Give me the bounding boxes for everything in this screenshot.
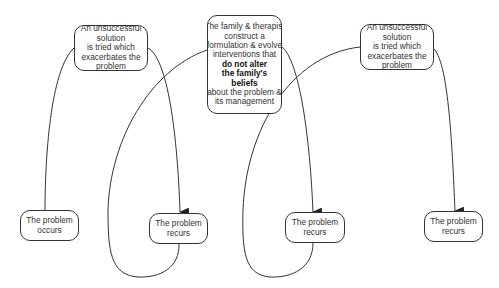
node-problem-recurs-3: The problem recurs	[424, 211, 483, 242]
edge-solution-right-to-recurs-3	[433, 48, 455, 211]
node-unsuccessful-solution-right: An unsuccessful solution is tried which …	[360, 24, 434, 70]
edge-intervention-to-recurs-2	[281, 46, 313, 212]
node-text-line: problem	[382, 61, 412, 70]
node-text-line: problem	[96, 62, 126, 71]
node-text-line: recurs	[303, 228, 326, 238]
node-problem-recurs-1: The problem recurs	[149, 213, 208, 244]
node-text-line: occurs	[37, 226, 61, 236]
node-text-line: its management	[215, 97, 274, 106]
node-text-line: recurs	[167, 229, 190, 239]
edge-occurs-to-solution-left	[45, 48, 74, 211]
node-unsuccessful-solution-left: An unsuccessful solution is tried which …	[74, 25, 148, 71]
node-problem-recurs-2: The problem recurs	[285, 212, 345, 243]
node-problem-occurs: The problem occurs	[20, 210, 79, 241]
node-text-line: recurs	[442, 227, 465, 237]
edge-solution-left-to-recurs-1	[148, 48, 180, 212]
node-family-therapist-intervention: The family & therapist construct a formu…	[207, 15, 282, 114]
